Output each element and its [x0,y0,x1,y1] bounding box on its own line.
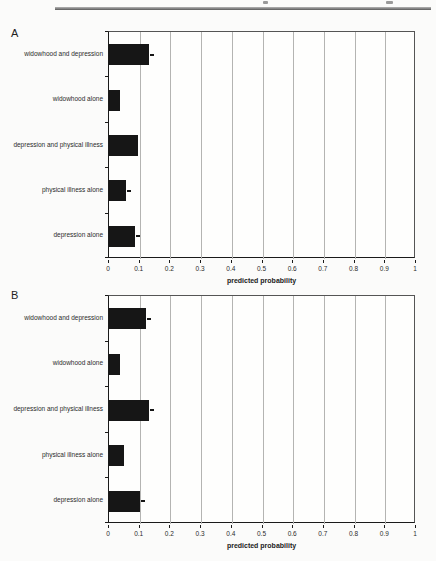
y-axis-tick [105,522,108,523]
x-tick-label-0.9: 0.9 [373,530,395,537]
category-label: widowhood alone [0,359,103,366]
category-label: widowhood and depression [0,314,103,321]
page-crop-text-remnant [386,1,393,4]
gridline-0.9 [385,296,386,524]
plot-area [108,295,415,523]
bar-widowhood-and-depression [109,308,146,329]
x-axis-tick [384,260,385,263]
x-tick-label-0.3: 0.3 [189,530,211,537]
bar-depression-alone [109,226,135,247]
gridline-0.9 [385,32,386,259]
gridline-0.2 [170,32,171,259]
x-axis-tick [200,525,201,528]
bar-physical-illness-alone [109,180,126,201]
y-axis-tick [105,477,108,478]
bar-tip-whisker [150,409,154,411]
x-tick-label-0.8: 0.8 [343,530,365,537]
bar-depression-and-physical-illness [109,135,138,156]
y-axis-tick [105,76,108,77]
x-axis-title: predicted probability [108,277,415,284]
x-tick-label-0.6: 0.6 [281,530,303,537]
bar-tip-whisker [147,318,151,320]
x-axis-tick [139,260,140,263]
bar-physical-illness-alone [109,445,124,466]
gridline-0.2 [170,296,171,524]
category-label: depression alone [0,496,103,503]
bar-widowhood-and-depression [109,44,149,65]
page-header-rule [55,7,431,10]
x-tick-label-0: 0 [97,530,119,537]
gridline-0.8 [355,32,356,259]
bar-widowhood-alone [109,354,120,375]
bar-depression-and-physical-illness [109,400,149,421]
y-axis-tick [105,257,108,258]
x-axis-tick [415,260,416,263]
bar-tip-whisker [150,54,154,56]
x-tick-label-0.5: 0.5 [251,265,273,272]
category-label: depression and physical illness [0,405,103,412]
x-tick-label-0.7: 0.7 [312,530,334,537]
x-axis-tick [292,260,293,263]
x-axis-tick [384,525,385,528]
x-tick-label-0.2: 0.2 [158,530,180,537]
y-axis-tick [105,31,108,32]
x-tick-label-0.5: 0.5 [251,530,273,537]
y-axis-tick [105,341,108,342]
y-axis-tick [105,295,108,296]
bar-chart-panel-b: widowhood and depressionwidowhood aloned… [0,295,436,555]
x-tick-label-0.9: 0.9 [373,265,395,272]
scanned-figure-page: A B widowhood and depressionwidowhood al… [0,0,436,561]
y-axis-tick [105,167,108,168]
gridline-0.3 [201,32,202,259]
bar-tip-whisker [136,235,140,237]
category-label: widowhood and depression [0,50,103,57]
gridline-0.8 [355,296,356,524]
gridline-0.6 [293,32,294,259]
gridline-0.3 [201,296,202,524]
x-axis-tick [354,525,355,528]
x-axis-tick [169,260,170,263]
gridline-0.5 [263,32,264,259]
x-axis-tick [231,260,232,263]
bar-chart-panel-a: widowhood and depressionwidowhood aloned… [0,31,436,291]
x-axis-tick [200,260,201,263]
gridline-0.1 [140,32,141,259]
category-label: widowhood alone [0,95,103,102]
gridline-0.6 [293,296,294,524]
x-axis-tick [139,525,140,528]
x-axis-tick [354,260,355,263]
y-axis-tick [105,122,108,123]
x-tick-label-0.1: 0.1 [128,265,150,272]
x-tick-label-0.2: 0.2 [158,265,180,272]
x-axis-tick [108,525,109,528]
x-axis-tick [262,525,263,528]
x-tick-label-0.4: 0.4 [220,530,242,537]
category-label: depression and physical illness [0,141,103,148]
x-axis-title: predicted probability [108,542,415,549]
gridline-0.4 [232,296,233,524]
gridline-0.4 [232,32,233,259]
y-axis-tick [105,432,108,433]
y-axis-tick [105,213,108,214]
page-crop-text-remnant [263,1,268,4]
bar-depression-alone [109,491,140,512]
x-axis-tick [323,260,324,263]
x-tick-label-0.6: 0.6 [281,265,303,272]
bar-widowhood-alone [109,90,120,111]
x-axis-tick [169,525,170,528]
plot-area [108,31,415,258]
bar-tip-whisker [141,500,145,502]
y-axis-tick [105,386,108,387]
x-tick-label-1: 1 [404,265,426,272]
x-tick-label-0.7: 0.7 [312,265,334,272]
x-tick-label-0: 0 [97,265,119,272]
x-tick-label-0.3: 0.3 [189,265,211,272]
category-label: depression alone [0,231,103,238]
x-axis-tick [323,525,324,528]
x-tick-label-0.4: 0.4 [220,265,242,272]
x-tick-label-0.8: 0.8 [343,265,365,272]
x-axis-tick [292,525,293,528]
gridline-0.7 [324,32,325,259]
category-label: physical illness alone [0,451,103,458]
x-tick-label-0.1: 0.1 [128,530,150,537]
